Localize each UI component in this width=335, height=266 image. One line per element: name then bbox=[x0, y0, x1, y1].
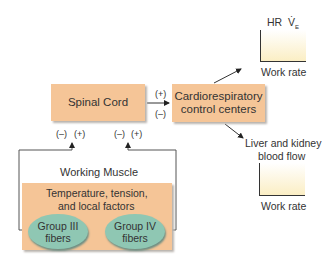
cardio-to-hr-arrow bbox=[214, 69, 241, 83]
cardio-label-line2: control centers bbox=[181, 103, 256, 116]
group4-line2: fibers bbox=[122, 232, 148, 244]
spinal-to-cardio-plus: (+) bbox=[155, 89, 166, 99]
left-feedback-plus: (+) bbox=[74, 129, 85, 139]
group3-line1: Group III bbox=[38, 220, 79, 232]
spinal-to-cardio-minus: (–) bbox=[155, 109, 166, 119]
factors-line2: and local factors bbox=[58, 200, 134, 212]
right-feedback-minus: (–) bbox=[114, 129, 125, 139]
bottom-graph-x-label: Work rate bbox=[261, 200, 306, 212]
right-feedback-plus: (+) bbox=[131, 129, 142, 139]
blood-flow-graph bbox=[259, 163, 305, 196]
spinal-cord-box: Spinal Cord bbox=[51, 84, 145, 121]
group4-line1: Group IV bbox=[114, 220, 156, 232]
cardio-to-liver-arrow bbox=[225, 124, 243, 138]
hr-label: HR bbox=[267, 16, 282, 28]
blood-flow-label: blood flow bbox=[258, 150, 305, 162]
group-iv-fibers: Group IV fibers bbox=[105, 214, 165, 249]
left-feedback-minus: (–) bbox=[56, 129, 67, 139]
top-graph-x-label: Work rate bbox=[261, 66, 306, 78]
group3-line2: fibers bbox=[45, 232, 71, 244]
cardio-centers-box: Cardiorespiratory control centers bbox=[172, 84, 265, 122]
factors-line1: Temperature, tension, bbox=[46, 187, 148, 199]
cardio-label-line1: Cardiorespiratory bbox=[174, 90, 262, 103]
spinal-cord-label: Spinal Cord bbox=[68, 96, 128, 109]
hr-ve-graph bbox=[260, 30, 306, 62]
working-muscle-title: Working Muscle bbox=[60, 166, 138, 178]
group-iii-fibers: Group III fibers bbox=[28, 214, 88, 249]
ve-symbol: V̇ bbox=[288, 16, 295, 28]
liver-kidney-label: Liver and kidney bbox=[245, 137, 321, 149]
